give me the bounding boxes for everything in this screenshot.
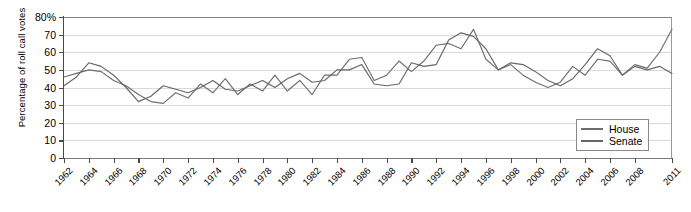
x-tick (163, 158, 164, 163)
x-tick (436, 158, 437, 163)
legend-swatch-senate (581, 140, 603, 141)
roll-call-votes-chart: Percentage of roll call votes 80%7060504… (0, 0, 691, 212)
x-tick-label: 1988 (375, 165, 398, 188)
x-tick (610, 158, 611, 163)
y-tick-label: 30 (44, 99, 56, 111)
y-tick-label: 60 (44, 46, 56, 58)
x-tick-label: 2002 (548, 165, 571, 188)
legend-item-house: House (581, 123, 642, 135)
x-tick-label: 1980 (275, 165, 298, 188)
x-tick (387, 158, 388, 163)
x-tick (114, 158, 115, 163)
x-tick (64, 158, 65, 163)
x-tick (511, 158, 512, 163)
legend-item-senate: Senate (581, 135, 642, 147)
x-tick-label: 1974 (201, 165, 224, 188)
x-tick (213, 158, 214, 163)
x-tick-label: 1970 (151, 165, 174, 188)
x-axis: 1962196419661968197019721974197619781980… (64, 158, 672, 212)
x-tick (536, 158, 537, 163)
x-tick (672, 158, 673, 163)
x-tick-label: 1990 (399, 165, 422, 188)
x-tick (312, 158, 313, 163)
y-tick-label: 80% (35, 11, 56, 23)
x-tick (411, 158, 412, 163)
x-tick-label: 1994 (449, 165, 472, 188)
x-tick-label: 2008 (623, 165, 646, 188)
x-tick (560, 158, 561, 163)
x-tick-label: 1976 (226, 165, 249, 188)
x-tick-label: 1982 (300, 165, 323, 188)
x-tick-label: 1962 (52, 165, 75, 188)
x-tick (635, 158, 636, 163)
x-tick (188, 158, 189, 163)
x-tick-label: 1984 (325, 165, 348, 188)
y-tick-label: 50 (44, 64, 56, 76)
x-tick-label: 1986 (350, 165, 373, 188)
legend-label-house: House (609, 123, 639, 135)
y-axis: 80%706050403020100 (0, 17, 64, 158)
x-tick (238, 158, 239, 163)
y-tick-label: 70 (44, 29, 56, 41)
legend-label-senate: Senate (609, 135, 642, 147)
x-tick (263, 158, 264, 163)
y-tick-label: 40 (44, 82, 56, 94)
x-tick-label: 2000 (524, 165, 547, 188)
legend: House Senate (576, 119, 649, 151)
x-tick (486, 158, 487, 163)
y-tick-label: 20 (44, 117, 56, 129)
x-tick (461, 158, 462, 163)
y-tick-label: 0 (50, 152, 56, 164)
x-tick-label: 1966 (102, 165, 125, 188)
x-tick-label: 2011 (661, 165, 683, 187)
y-tick-label: 10 (44, 134, 56, 146)
x-tick (89, 158, 90, 163)
x-tick-label: 1978 (251, 165, 274, 188)
x-tick (362, 158, 363, 163)
x-tick (585, 158, 586, 163)
x-tick-label: 1992 (424, 165, 447, 188)
x-tick-label: 1972 (176, 165, 199, 188)
legend-swatch-house (581, 128, 603, 129)
x-tick-label: 2004 (573, 165, 596, 188)
x-tick (287, 158, 288, 163)
x-tick (138, 158, 139, 163)
x-tick-label: 1998 (499, 165, 522, 188)
series-line-senate (64, 33, 672, 102)
x-tick (337, 158, 338, 163)
x-tick-label: 2006 (598, 165, 621, 188)
x-tick-label: 1964 (77, 165, 100, 188)
x-tick-label: 1996 (474, 165, 497, 188)
x-tick-label: 1968 (126, 165, 149, 188)
